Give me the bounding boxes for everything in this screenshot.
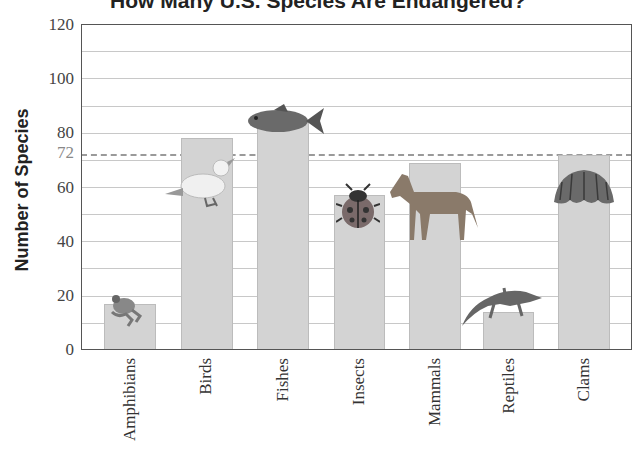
x-label-text: Reptiles — [499, 358, 519, 414]
y-tick-20: 20 — [57, 286, 74, 306]
chart-title: How Many U.S. Species Are Endangered? — [0, 0, 636, 13]
bird-icon — [163, 148, 238, 210]
horse-icon — [386, 170, 480, 242]
y-tick-60: 60 — [57, 178, 74, 198]
x-label-amphibians: Amphibians — [120, 358, 203, 378]
x-label-insects: Insects — [349, 358, 396, 378]
y-tick-100: 100 — [49, 69, 75, 89]
x-label-text: Birds — [196, 358, 216, 395]
x-label-text: Insects — [349, 358, 369, 405]
clam-icon — [552, 168, 616, 208]
x-label-fishes: Fishes — [273, 358, 316, 378]
y-tick-80: 80 — [57, 123, 74, 143]
x-label-text: Fishes — [273, 358, 293, 401]
fish-icon — [244, 104, 326, 138]
x-label-birds: Birds — [196, 358, 233, 378]
x-label-text: Clams — [574, 358, 594, 401]
x-label-mammals: Mammals — [425, 358, 493, 378]
y-tick-72: 72 — [57, 143, 74, 163]
x-label-text: Mammals — [425, 358, 445, 426]
y-tick-40: 40 — [57, 232, 74, 252]
y-axis-label: Number of Species — [12, 108, 33, 271]
x-label-text: Amphibians — [120, 358, 140, 441]
x-label-reptiles: Reptiles — [499, 358, 555, 378]
x-label-clams: Clams — [574, 358, 617, 378]
y-tick-0: 0 — [66, 340, 75, 360]
ladybug-icon — [336, 182, 380, 232]
lizard-icon — [460, 282, 546, 328]
frog-icon — [104, 290, 146, 332]
y-tick-120: 120 — [49, 15, 75, 35]
